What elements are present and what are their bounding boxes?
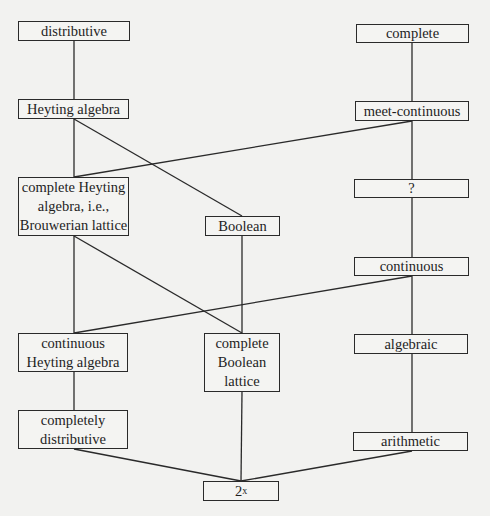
- node-unknown: ?: [354, 179, 469, 198]
- node-distributive: distributive: [18, 21, 130, 41]
- node-continuous-heyting-algebra: continuous Heyting algebra: [18, 333, 128, 372]
- node-label: complete Boolean lattice: [215, 334, 268, 391]
- node-algebraic: algebraic: [354, 334, 468, 354]
- node-complete: complete: [356, 24, 469, 43]
- node-label: meet-continuous: [364, 102, 461, 121]
- edge-complete_boolean-power_set: [241, 392, 242, 481]
- node-completely-distributive: completely distributive: [18, 410, 128, 449]
- node-boolean: Boolean: [205, 216, 280, 236]
- node-label: algebraic: [384, 335, 437, 354]
- node-label: continuous: [380, 257, 444, 276]
- node-label: arithmetic: [381, 432, 440, 451]
- node-label: complete Heyting algebra, i.e., Brouweri…: [20, 178, 128, 235]
- node-complete-boolean-lattice: complete Boolean lattice: [204, 333, 280, 392]
- node-label: completely distributive: [40, 411, 106, 449]
- node-label: complete: [386, 24, 439, 43]
- node-label: distributive: [41, 22, 107, 41]
- lattice-hasse-diagram: distributive complete Heyting algebra me…: [0, 0, 490, 516]
- node-label: Boolean: [218, 217, 266, 236]
- node-power-set: 2x: [203, 481, 279, 501]
- edge-arithmetic-power_set: [241, 451, 412, 481]
- node-label: ?: [408, 179, 414, 198]
- node-heyting-algebra: Heyting algebra: [18, 99, 129, 119]
- node-meet-continuous: meet-continuous: [355, 101, 469, 121]
- node-continuous: continuous: [354, 257, 469, 276]
- node-label: continuous Heyting algebra: [26, 334, 119, 372]
- node-arithmetic: arithmetic: [353, 432, 468, 451]
- node-label: Heyting algebra: [27, 100, 120, 119]
- node-complete-heyting-algebra: complete Heyting algebra, i.e., Brouweri…: [18, 177, 129, 236]
- edge-continuous-continuous_heyting: [74, 276, 412, 333]
- edge-completely_distributive-power_set: [74, 449, 241, 481]
- node-label: 2: [235, 482, 242, 501]
